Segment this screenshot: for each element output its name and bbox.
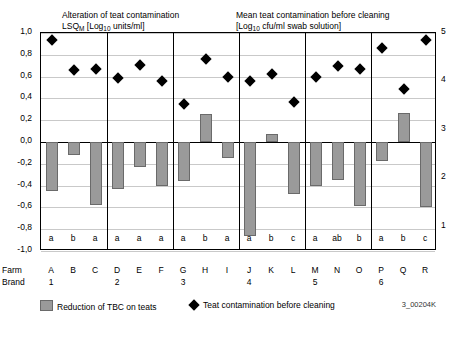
bar-b — [68, 142, 79, 155]
diamond-marker-g — [178, 98, 189, 109]
group-separator — [371, 33, 372, 249]
brand-label-r: R — [412, 265, 438, 275]
gridline — [41, 98, 435, 99]
y2-tick-label: 5 — [441, 26, 446, 36]
bar-d — [112, 142, 123, 189]
y2-tick-label: 1 — [441, 220, 446, 230]
diamond-marker-r — [420, 34, 431, 45]
bar-n — [332, 142, 343, 180]
gridline — [41, 33, 435, 34]
legend-diamond-label: Teat contamination before cleaning — [203, 300, 335, 310]
y-tick-label: -0,8 — [2, 222, 32, 232]
diamond-marker-c — [90, 63, 101, 74]
farm-number-label: 2 — [104, 277, 130, 287]
farm-number-label: 6 — [368, 277, 394, 287]
y-tick-label: -0,2 — [2, 157, 32, 167]
y-tick-label: 0,2 — [2, 113, 32, 123]
group-separator — [173, 33, 174, 249]
diamond-marker-q — [398, 83, 409, 94]
diamond-marker-b — [68, 64, 79, 75]
diamond-marker-i — [222, 71, 233, 82]
y-tick-label: 0,8 — [2, 48, 32, 58]
group-separator — [107, 33, 108, 249]
bar-e — [134, 142, 145, 167]
bar-h — [200, 114, 211, 142]
gridline — [41, 229, 435, 230]
farm-number-label: 4 — [236, 277, 262, 287]
chart-title-left-line1: Alteration of teat contamination — [62, 10, 179, 20]
row-header-brand: Brand — [2, 277, 25, 287]
diamond-marker-a — [46, 34, 57, 45]
gridline — [41, 55, 435, 56]
legend-item-diamonds: Teat contamination before cleaning — [190, 300, 335, 310]
plot-area — [40, 32, 436, 250]
y-tick-label: 0,0 — [2, 135, 32, 145]
legend-bar-label: Reduction of TBC on teats — [57, 302, 157, 312]
y-tick-label: -0,6 — [2, 200, 32, 210]
diamond-marker-o — [354, 63, 365, 74]
farm-number-label: 5 — [302, 277, 328, 287]
bar-c — [90, 142, 101, 205]
bar-i — [222, 142, 233, 158]
gridline — [41, 207, 435, 208]
y-tick-label: -1,0 — [2, 244, 32, 254]
group-letter-label: c — [412, 233, 438, 243]
diamond-marker-e — [134, 59, 145, 70]
bar-m — [310, 142, 321, 186]
bar-g — [178, 142, 189, 181]
bar-a — [46, 142, 57, 191]
legend-bar-swatch — [40, 300, 53, 311]
bar-f — [156, 142, 167, 186]
y2-tick-label: 3 — [441, 123, 446, 133]
legend-item-bars: Reduction of TBC on teats — [40, 300, 157, 312]
group-separator — [239, 33, 240, 249]
group-separator — [305, 33, 306, 249]
row-header-farm: Farm — [2, 265, 22, 275]
legend-diamond-swatch — [188, 299, 199, 310]
y-tick-label: 0,6 — [2, 70, 32, 80]
y2-tick-label: 2 — [441, 171, 446, 181]
chart-root: Alteration of teat contamination LSQM [L… — [0, 0, 455, 341]
diamond-marker-k — [266, 69, 277, 80]
gridline — [41, 251, 435, 252]
bar-r — [420, 142, 431, 207]
y-tick-label: 0,4 — [2, 91, 32, 101]
diamond-marker-n — [332, 60, 343, 71]
farm-number-label: 3 — [170, 277, 196, 287]
bar-q — [398, 113, 409, 142]
bar-p — [376, 142, 387, 161]
diamond-marker-m — [310, 71, 321, 82]
figure-code: 3_00204K — [402, 300, 436, 309]
bar-k — [266, 134, 277, 142]
y-tick-label: -0,4 — [2, 179, 32, 189]
y2-tick-label: 4 — [441, 74, 446, 84]
gridline — [41, 77, 435, 78]
gridline — [41, 120, 435, 121]
farm-number-label: 1 — [38, 277, 64, 287]
bar-o — [354, 142, 365, 206]
y-tick-label: 1,0 — [2, 26, 32, 36]
diamond-marker-d — [112, 72, 123, 83]
chart-title-right-line1: Mean teat contamination before cleaning — [236, 10, 390, 20]
bar-j — [244, 142, 255, 236]
bar-l — [288, 142, 299, 194]
diamond-marker-p — [376, 43, 387, 54]
